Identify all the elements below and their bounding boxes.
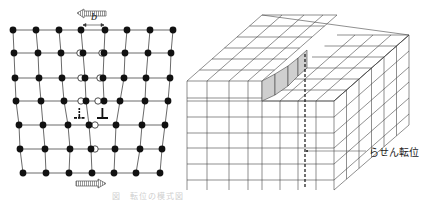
atom-icon bbox=[157, 170, 164, 177]
atom-icon bbox=[80, 50, 87, 57]
burgers-vector-label: b bbox=[91, 11, 97, 22]
step-faces bbox=[262, 50, 307, 101]
atom-icon bbox=[124, 27, 131, 34]
atom-icon bbox=[65, 122, 72, 129]
atom-icon bbox=[111, 170, 118, 177]
burgers-vector-dimension bbox=[83, 24, 104, 27]
atom-icon bbox=[121, 75, 128, 82]
dislocation-symbol-dotted-icon bbox=[74, 108, 85, 119]
dislocation-symbol-solid-icon bbox=[97, 108, 108, 119]
shear-arrow-bottom-icon bbox=[76, 179, 106, 188]
atom-icon bbox=[139, 122, 146, 129]
atom-icon bbox=[13, 98, 20, 105]
dislocation-diagram bbox=[0, 0, 427, 200]
atom-icon bbox=[86, 122, 93, 129]
atom-icon bbox=[165, 98, 172, 105]
atom-icon bbox=[58, 50, 65, 57]
vacant-site-icon bbox=[95, 98, 101, 104]
atom-icon bbox=[170, 27, 177, 34]
atom-icon bbox=[162, 122, 169, 129]
atom-icon bbox=[168, 50, 175, 57]
atom-icon bbox=[147, 27, 154, 34]
atom-icon bbox=[82, 75, 89, 82]
atom-icon bbox=[89, 170, 96, 177]
atom-icon bbox=[61, 98, 68, 105]
atom-icon bbox=[56, 27, 63, 34]
atom-icon bbox=[59, 75, 66, 82]
atom-icon bbox=[167, 75, 174, 82]
atom-icon bbox=[101, 98, 108, 105]
atom-icon bbox=[20, 170, 27, 177]
figure-caption: 図 転位の模式図 bbox=[112, 190, 184, 200]
atom-icon bbox=[101, 50, 108, 57]
atom-icon bbox=[17, 146, 24, 153]
atom-icon bbox=[133, 170, 140, 177]
atom-icon bbox=[11, 50, 18, 57]
atom-icon bbox=[78, 27, 85, 34]
atom-icon bbox=[122, 50, 129, 57]
atom-icon bbox=[142, 98, 149, 105]
atom-icon bbox=[16, 122, 23, 129]
atom-icon bbox=[67, 146, 74, 153]
screw-dislocation-label: らせん転位 bbox=[369, 144, 419, 159]
atom-icon bbox=[35, 50, 42, 57]
atom-icon bbox=[137, 146, 144, 153]
atom-icon bbox=[33, 27, 40, 34]
atom-icon bbox=[117, 98, 124, 105]
atom-icon bbox=[145, 50, 152, 57]
atom-icon bbox=[102, 27, 109, 34]
atom-icon bbox=[10, 27, 17, 34]
atom-icon bbox=[100, 75, 107, 82]
atom-icon bbox=[38, 98, 45, 105]
vacant-site-icon bbox=[92, 122, 98, 128]
atom-icon bbox=[66, 170, 73, 177]
atom-icon bbox=[40, 122, 47, 129]
screw-dislocation-block bbox=[187, 15, 409, 190]
atom-icon bbox=[113, 122, 120, 129]
atom-icon bbox=[12, 75, 19, 82]
atom-icon bbox=[83, 98, 90, 105]
atom-icon bbox=[159, 146, 166, 153]
atom-icon bbox=[88, 146, 95, 153]
atom-icon bbox=[112, 146, 119, 153]
atom-icon bbox=[36, 75, 43, 82]
atom-icon bbox=[143, 75, 150, 82]
atom-icon bbox=[43, 170, 50, 177]
atom-icon bbox=[42, 146, 49, 153]
edge-dislocation-lattice bbox=[10, 27, 177, 177]
